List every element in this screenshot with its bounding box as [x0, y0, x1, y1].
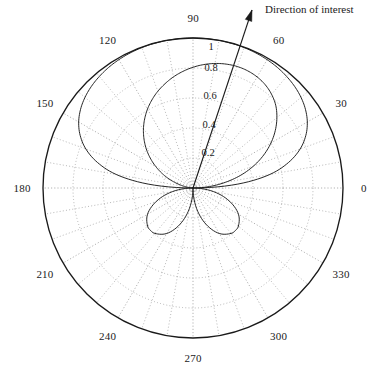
r-tick-label-0.8: 0.8 — [205, 62, 218, 73]
polar-plot-figure: 0 30 60 90 120 150 180 210 240 270 300 3… — [0, 0, 379, 371]
theta-tick-label-240: 240 — [99, 330, 116, 342]
r-tick-label-0.4: 0.4 — [203, 119, 216, 130]
theta-tick-label-270: 270 — [185, 352, 202, 364]
polar-plot-canvas — [0, 0, 379, 371]
theta-tick-label-210: 210 — [36, 268, 53, 280]
theta-tick-label-30: 30 — [336, 97, 347, 109]
theta-tick-label-300: 300 — [270, 330, 287, 342]
theta-tick-label-150: 150 — [36, 97, 53, 109]
r-tick-label-0.6: 0.6 — [204, 90, 217, 101]
r-tick-label-0.2: 0.2 — [202, 147, 215, 158]
theta-tick-label-0: 0 — [361, 182, 367, 194]
theta-tick-label-90: 90 — [188, 12, 199, 24]
theta-tick-label-330: 330 — [333, 268, 350, 280]
direction-of-interest-label: Direction of interest — [265, 3, 354, 15]
direction-of-interest-arrow — [193, 10, 252, 188]
theta-tick-label-60: 60 — [273, 34, 284, 46]
theta-tick-label-120: 120 — [99, 34, 116, 46]
theta-tick-label-180: 180 — [14, 182, 31, 194]
r-tick-label-1: 1 — [209, 41, 214, 52]
